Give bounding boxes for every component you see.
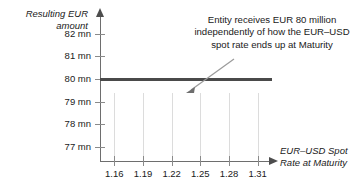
chart-figure: Resulting EUR amount EUR–USD Spot Rate a… [0,0,363,191]
x-tick-label: 1.19 [128,168,158,179]
y-tick-label: 80 mn [33,74,91,84]
y-tick [95,56,105,57]
gridline [258,93,259,161]
annotation-leader-arrow-icon [184,56,238,96]
y-tick-label-wrap: 79 mn [33,97,91,107]
y-tick-label: 79 mn [33,97,91,107]
y-tick-label-wrap: 80 mn [33,74,91,84]
y-tick-label: 78 mn [33,119,91,129]
gridline [200,93,201,161]
x-tick-label: 1.25 [185,168,215,179]
x-tick [229,156,230,166]
y-tick-label-wrap: 81 mn [33,51,91,61]
y-tick-label-wrap: 82 mn [33,29,91,39]
x-tick-label: 1.28 [214,168,244,179]
y-axis-line [100,16,101,162]
x-tick-label: 1.16 [99,168,129,179]
gridline [229,93,230,161]
gridline [143,93,144,161]
x-tick [258,156,259,166]
x-tick [143,156,144,166]
x-axis-title: EUR–USD Spot Rate at Maturity [280,145,363,169]
x-axis-arrow-icon [269,157,278,165]
y-tick [95,124,105,125]
x-tick [172,156,173,166]
x-tick-label: 1.31 [243,168,273,179]
y-axis-arrow-icon [96,8,104,17]
gridline [172,93,173,161]
x-tick [200,156,201,166]
y-tick-label: 82 mn [33,29,91,39]
y-tick-label: 77 mn [33,142,91,152]
y-tick-label-wrap: 78 mn [33,119,91,129]
gridline [114,93,115,161]
x-tick [114,156,115,166]
y-tick-label-wrap: 77 mn [33,142,91,152]
y-tick [95,34,105,35]
x-axis-line [100,161,272,162]
x-tick-label: 1.22 [157,168,187,179]
annotation-text: Entity receives EUR 80 million independe… [186,14,358,51]
y-tick-label: 81 mn [33,51,91,61]
y-tick [95,147,105,148]
y-tick [95,102,105,103]
